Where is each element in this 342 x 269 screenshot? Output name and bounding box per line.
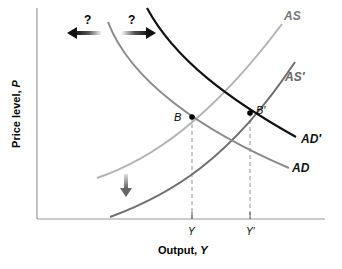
tick-label-Y-prime: Y′ <box>246 226 255 237</box>
as-label: AS <box>284 9 301 23</box>
arrow-left-icon <box>67 27 102 39</box>
ad-as-diagram <box>0 0 342 269</box>
x-axis-title-text: Output, <box>158 244 197 256</box>
as-prime-label: AS′ <box>285 70 305 84</box>
tick-label-Y: Y <box>188 226 195 237</box>
ad-prime-label: AD′ <box>301 132 321 146</box>
arrow-right-icon <box>121 27 156 39</box>
point-B-label: B <box>174 111 181 123</box>
arrow-down-icon <box>120 174 132 197</box>
point-B <box>189 114 195 120</box>
ad-prime-curve <box>147 8 296 137</box>
y-axis-title-text: Price level, <box>10 90 22 148</box>
ad-curve <box>108 22 289 168</box>
y-axis-title-var: P <box>10 80 22 87</box>
left-question-mark: ? <box>84 13 91 27</box>
y-axis-title: Price level, P <box>10 64 22 164</box>
point-B-prime-label: B′ <box>256 104 265 116</box>
as-prime-curve <box>110 62 295 217</box>
point-B-prime <box>247 110 253 116</box>
right-question-mark: ? <box>128 13 135 27</box>
as-curve <box>97 24 282 178</box>
x-axis-title-var: Y <box>200 244 207 256</box>
x-axis-title: Output, Y <box>158 244 208 256</box>
ad-label: AD <box>292 161 309 175</box>
